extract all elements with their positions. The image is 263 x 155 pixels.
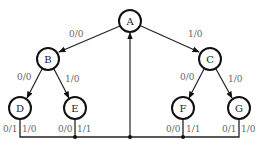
edge-label-a-c: 1/0 — [188, 29, 203, 39]
node-d: D — [9, 97, 31, 119]
node-e: E — [64, 97, 86, 119]
node-d-label: D — [16, 103, 24, 114]
node-a: A — [119, 10, 141, 32]
return-label-d-left: 0/1 — [3, 124, 17, 134]
junction-dot-center — [128, 135, 132, 139]
edge-label-b-e: 1/0 — [65, 74, 80, 84]
state-diagram: A B C D E F G 0/0 1/0 0/0 1/0 0/0 1/0 0/… — [0, 0, 263, 155]
return-label-d-right: 1/0 — [22, 124, 37, 134]
junction-dot-f — [181, 135, 185, 139]
node-b-label: B — [44, 54, 51, 65]
return-label-f-right: 1/1 — [186, 124, 200, 134]
edge-label-b-d: 0/0 — [17, 72, 32, 82]
edge-label-c-f: 0/0 — [180, 72, 195, 82]
node-b: B — [37, 48, 59, 70]
node-g-label: G — [235, 103, 243, 114]
return-label-g-left: 0/1 — [222, 124, 236, 134]
return-label-e-left: 0/0 — [58, 124, 73, 134]
return-label-f-left: 0/0 — [166, 124, 181, 134]
node-e-label: E — [71, 103, 78, 114]
node-g: G — [228, 97, 250, 119]
node-f: F — [172, 97, 194, 119]
node-a-label: A — [125, 16, 134, 27]
junction-dot-e — [73, 135, 77, 139]
node-c: C — [199, 48, 221, 70]
edge-label-a-b: 0/0 — [69, 29, 84, 39]
node-f-label: F — [180, 103, 187, 114]
node-c-label: C — [206, 54, 214, 65]
edge-label-c-g: 1/0 — [228, 74, 243, 84]
return-label-g-right: 1/0 — [241, 124, 256, 134]
return-label-e-right: 1/1 — [77, 124, 91, 134]
